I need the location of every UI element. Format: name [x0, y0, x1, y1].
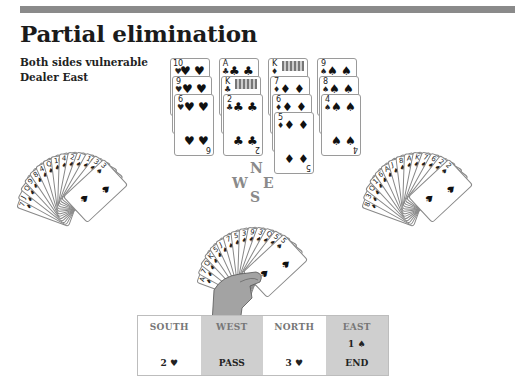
dealer-label: Dealer East [20, 70, 148, 85]
bid-column-south: SOUTH 2 ♥ [138, 316, 201, 375]
suit-icon: ♠ [331, 101, 342, 113]
compass-north: N [250, 160, 263, 176]
suit-icon: ♦ [284, 119, 295, 131]
face-card-icon [282, 61, 304, 71]
suit-icon: ♦ [284, 153, 295, 165]
east-hand-fan: 8♠3♠Q♠10♠6♠A♠J♠8♠A♠K♠7♠6♠2♠2♠♠♠ [420, 210, 430, 220]
card-rank: 4 [353, 145, 358, 153]
bid: 2 ♥ [138, 358, 201, 368]
suit-icon: ♥ [184, 101, 195, 113]
card-rank: 6 [206, 145, 211, 153]
suit-icon: ♣ [233, 135, 244, 147]
card-rank: 5 [306, 163, 311, 171]
seat-label: WEST [201, 322, 264, 332]
compass-south: S [250, 189, 260, 205]
seat-label: EAST [326, 322, 389, 332]
page-title: Partial elimination [20, 20, 257, 47]
bid-column-north: NORTH 3 ♥ [263, 316, 326, 375]
suit-icon: ♦ [298, 119, 309, 131]
compass-east: E [263, 175, 274, 191]
bid: END [326, 358, 389, 368]
bid-column-east: EAST 1 ♠ END [326, 316, 389, 375]
card-rank: 2 [255, 145, 260, 153]
card-rank: K♦ [271, 60, 278, 76]
deal-info: Both sides vulnerable Dealer East [20, 55, 148, 85]
bidding-table: SOUTH 2 ♥ WEST PASS NORTH 3 ♥ EAST 1 ♠ E… [137, 315, 389, 376]
compass-west: W [232, 175, 248, 191]
suit-icon: ♣ [233, 101, 244, 113]
seat-label: SOUTH [138, 322, 201, 332]
west-hand-fan: 7♠J♠Q♠9♠8♠4♠Q♠10♠4♠2♠J♠10♠3♠3♠♠♠ [75, 210, 85, 220]
seat-label: NORTH [263, 322, 326, 332]
face-card-icon [235, 79, 257, 89]
dummy-card: 4♠♠♠♠♠4 [321, 94, 361, 156]
dummy-card: 2♣♣♣♣♣2 [223, 94, 263, 156]
suit-icon: ♥ [184, 135, 195, 147]
bid: PASS [201, 358, 264, 368]
suit-icon: ♠ [345, 101, 356, 113]
suit-icon: ♠ [331, 135, 342, 147]
bid: 1 ♠ [326, 339, 389, 349]
dummy-card: 5♦♦♦♦♦5 [274, 112, 314, 174]
bid: 3 ♥ [263, 358, 326, 368]
vulnerability-label: Both sides vulnerable [20, 55, 148, 70]
top-rule-bar [20, 6, 515, 13]
suit-icon: ♣ [247, 101, 258, 113]
bid-column-west: WEST PASS [201, 316, 264, 375]
suit-icon: ♥ [198, 101, 209, 113]
card-rank: K♣ [224, 78, 231, 94]
dummy-card: 6♥♥♥♥♥6 [174, 94, 214, 156]
